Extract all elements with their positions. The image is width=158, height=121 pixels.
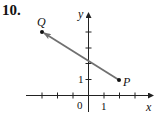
point-q — [40, 30, 44, 34]
y-axis-label: y — [77, 7, 84, 21]
point-p-label: P — [122, 75, 131, 89]
coordinate-plane: Q P y x 0 1 1 — [0, 0, 158, 121]
point-p — [117, 78, 121, 82]
y-tick-label: 1 — [78, 73, 84, 85]
origin-label: 0 — [77, 99, 83, 111]
x-tick-label: 1 — [101, 100, 107, 112]
x-axis-label: x — [145, 100, 152, 114]
point-q-label: Q — [37, 15, 46, 29]
